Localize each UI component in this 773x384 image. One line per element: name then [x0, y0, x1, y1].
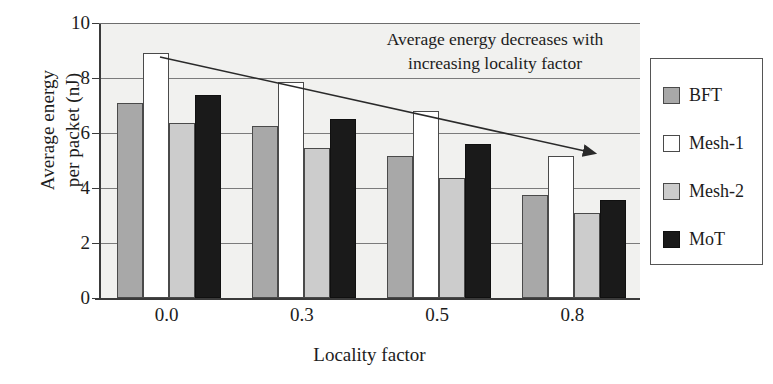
chart-figure: Average energy per packet (nJ) 0246810 A… [0, 0, 773, 384]
annotation-line-1: Average energy decreases with [350, 27, 640, 51]
y-tick-label: 6 [56, 122, 90, 144]
bar-mot-0.3 [330, 119, 356, 298]
legend: BFTMesh-1Mesh-2MoT [650, 58, 763, 265]
bar-mesh-2-0.3 [304, 148, 330, 298]
bar-bft-0.8 [522, 195, 548, 298]
legend-item-bft[interactable]: BFT [663, 71, 762, 119]
y-tick-label: 4 [56, 177, 90, 199]
bar-bft-0.5 [387, 156, 413, 298]
y-tick-mark [92, 78, 99, 79]
x-tick-label: 0.5 [425, 304, 449, 326]
y-tick-mark [92, 298, 99, 299]
swatch-mesh2-icon [663, 183, 680, 200]
y-tick-label: 0 [56, 287, 90, 309]
chart-annotation: Average energy decreases with increasing… [350, 27, 640, 75]
legend-item-mesh-1[interactable]: Mesh-1 [663, 119, 762, 167]
legend-item-mesh-2[interactable]: Mesh-2 [663, 167, 762, 215]
plot-top-border [99, 23, 640, 24]
bar-mesh-1-0.8 [548, 156, 574, 298]
bar-mesh-1-0.0 [143, 53, 169, 298]
bar-mesh-2-0.0 [169, 123, 195, 298]
swatch-mot-icon [663, 231, 680, 248]
legend-label: BFT [689, 85, 722, 106]
bar-bft-0.3 [252, 126, 278, 298]
bar-mot-0.0 [195, 95, 221, 299]
x-axis-line [95, 298, 640, 300]
bar-mot-0.5 [465, 144, 491, 298]
x-tick-label: 0.3 [290, 304, 314, 326]
bar-mot-0.8 [600, 200, 626, 298]
x-tick-label: 0.8 [561, 304, 585, 326]
x-axis-title: Locality factor [99, 344, 640, 366]
y-tick-label: 2 [56, 232, 90, 254]
y-axis-tick-labels: 0246810 [52, 0, 90, 384]
swatch-mesh1-icon [663, 135, 680, 152]
y-tick-label: 10 [56, 12, 90, 34]
y-tick-mark [92, 188, 99, 189]
bar-mesh-1-0.5 [413, 111, 439, 298]
x-tick-label: 0.0 [155, 304, 179, 326]
y-tick-label: 8 [56, 67, 90, 89]
legend-item-mot[interactable]: MoT [663, 215, 762, 263]
legend-label: MoT [689, 229, 725, 250]
bar-bft-0.0 [117, 103, 143, 298]
annotation-line-2: increasing locality factor [350, 51, 640, 75]
y-tick-mark [92, 133, 99, 134]
swatch-bft-icon [663, 87, 680, 104]
bar-mesh-1-0.3 [278, 82, 304, 298]
bar-mesh-2-0.5 [439, 178, 465, 298]
legend-label: Mesh-1 [689, 133, 744, 154]
y-tick-mark [92, 23, 99, 24]
bar-mesh-2-0.8 [574, 213, 600, 298]
legend-label: Mesh-2 [689, 181, 744, 202]
y-tick-mark [92, 243, 99, 244]
